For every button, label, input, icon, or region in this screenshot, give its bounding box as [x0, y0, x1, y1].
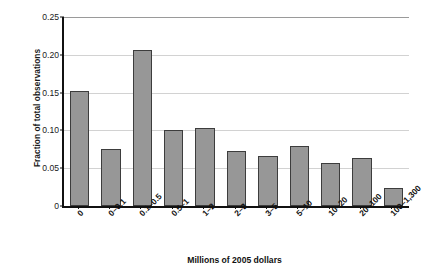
bar-3–5	[258, 156, 277, 206]
x-axis-ticks: 00–0.10.1–0.50.5–11–22–33–55–1010–2020–1…	[62, 206, 407, 254]
y-tick-label-0: 0	[54, 201, 59, 211]
bar-2–3	[227, 151, 246, 206]
bar-series	[64, 17, 409, 206]
y-tick-label-0.20: 0.20	[42, 50, 59, 60]
y-tick-label-0.05: 0.05	[42, 163, 59, 173]
bar-0.5–1	[164, 130, 183, 206]
y-tick-label-0.25: 0.25	[42, 12, 59, 22]
y-axis-title: Fraction of total observations	[32, 13, 42, 203]
x-tick-label-0: 0	[75, 208, 85, 218]
plot-area: 00.050.100.150.200.25	[62, 17, 409, 208]
y-tick-label-0.10: 0.10	[42, 125, 59, 135]
bar-chart-figure: Fraction of total observations 00.050.10…	[0, 0, 429, 275]
bar-0.1–0.5	[133, 50, 152, 206]
bar-0	[70, 91, 89, 206]
y-tick-label-0.15: 0.15	[42, 88, 59, 98]
x-axis-title: Millions of 2005 dollars	[62, 255, 407, 265]
bar-5–10	[290, 146, 309, 206]
bar-1–2	[195, 128, 214, 206]
